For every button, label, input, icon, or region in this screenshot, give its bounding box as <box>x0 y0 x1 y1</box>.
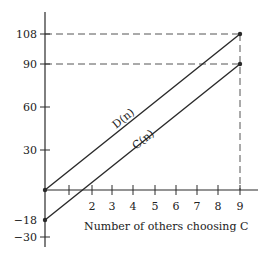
point-c-end <box>238 62 242 66</box>
point-d-end <box>238 32 242 36</box>
point-d-start <box>43 188 47 192</box>
y-tick-neg30: −30 <box>14 231 37 244</box>
x-tick-6: 6 <box>173 200 180 213</box>
x-tick-8: 8 <box>215 200 222 213</box>
y-tick-90: 90 <box>23 58 37 71</box>
x-tick-9: 9 <box>237 200 244 213</box>
y-tick-30: 30 <box>23 144 37 157</box>
y-tick-108: 108 <box>16 28 37 41</box>
y-tick-neg18: −18 <box>14 214 37 227</box>
x-tick-2: 2 <box>89 200 96 213</box>
series-d-line <box>45 34 240 190</box>
x-tick-5: 5 <box>152 200 159 213</box>
x-axis-title: Number of others choosing C <box>84 220 248 233</box>
payoff-chart: 108 90 60 30 −18 −30 2 3 4 5 6 7 8 9 D(n… <box>0 0 271 258</box>
x-tick-3: 3 <box>109 200 116 213</box>
x-tick-4: 4 <box>130 200 137 213</box>
point-c-start <box>43 218 47 222</box>
series-c-label: C(n) <box>130 127 157 152</box>
x-tick-7: 7 <box>194 200 201 213</box>
y-tick-60: 60 <box>23 101 37 114</box>
